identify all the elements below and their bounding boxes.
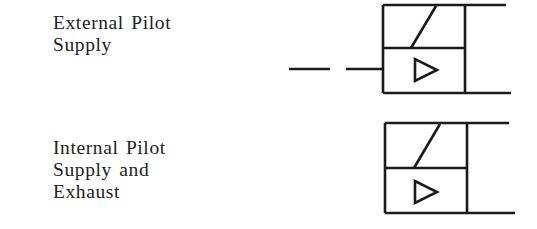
triangle-icon: [415, 181, 437, 203]
diagonal-arrow-icon: [414, 124, 440, 168]
diagram-canvas: [0, 0, 537, 229]
diagonal-arrow-icon: [411, 6, 436, 48]
triangle-icon: [415, 59, 437, 81]
external-pilot-valve-symbol: [289, 5, 511, 93]
internal-pilot-valve-symbol: [385, 123, 515, 213]
